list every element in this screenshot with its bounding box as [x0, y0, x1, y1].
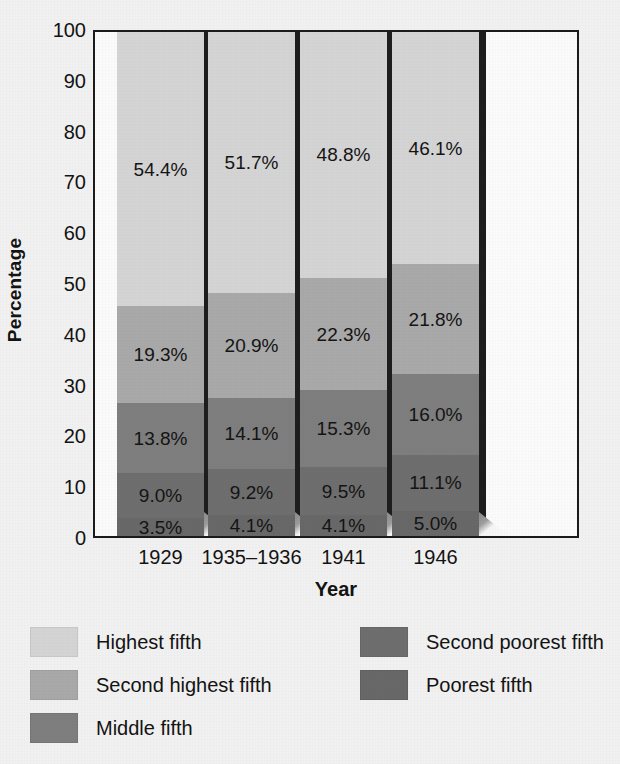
bar-segment: 9.0%: [117, 473, 204, 518]
legend-label: Second highest fifth: [96, 674, 272, 697]
bar-segment: 48.8%: [300, 32, 387, 278]
bar-segment-label: 16.0%: [409, 405, 463, 424]
bar-segment: 16.0%: [392, 374, 479, 455]
bar-segment: 13.8%: [117, 403, 204, 473]
bar-segment: 9.2%: [208, 469, 295, 515]
legend-column-right: Second poorest fifthPoorest fifth: [360, 622, 600, 708]
bar-segment: 11.1%: [392, 455, 479, 511]
legend-item[interactable]: Highest fifth: [30, 622, 360, 662]
legend-label: Middle fifth: [96, 717, 193, 740]
bar-segment: 9.5%: [300, 467, 387, 515]
y-axis-tick-90: 90: [64, 69, 86, 92]
x-axis-tick-1929: 1929: [138, 546, 183, 569]
bar-segment: 20.9%: [208, 293, 295, 398]
y-axis-tick-labels: 0102030405060708090100: [44, 30, 90, 538]
bar-segment-label: 19.3%: [134, 345, 188, 364]
bar-segment-label: 5.0%: [414, 514, 457, 533]
legend-column-left: Highest fifthSecond highest fifthMiddle …: [30, 622, 360, 751]
legend-item[interactable]: Middle fifth: [30, 708, 360, 748]
y-axis-tick-40: 40: [64, 323, 86, 346]
bar-1946: 5.0%11.1%16.0%21.8%46.1%: [392, 32, 479, 536]
plot-area: 3.5%9.0%13.8%19.3%54.4%4.1%9.2%14.1%20.9…: [93, 30, 579, 538]
bar-segment-label: 9.2%: [230, 483, 273, 502]
bar-segment: 21.8%: [392, 264, 479, 374]
y-axis-title: Percentage: [4, 210, 26, 370]
bar-segment: 19.3%: [117, 306, 204, 403]
bar-stack: 5.0%11.1%16.0%21.8%46.1%: [392, 32, 479, 536]
y-axis-tick-80: 80: [64, 120, 86, 143]
bar-segment: 46.1%: [392, 32, 479, 264]
bar-segment: 4.1%: [208, 515, 295, 536]
bar-segment-label: 54.4%: [134, 160, 188, 179]
x-axis-tick-1946: 1946: [413, 546, 458, 569]
bar-segment: 54.4%: [117, 32, 204, 306]
y-axis-tick-10: 10: [64, 476, 86, 499]
legend-label: Highest fifth: [96, 631, 202, 654]
bar-segment-label: 46.1%: [409, 139, 463, 158]
bar-segment-label: 22.3%: [317, 325, 371, 344]
bar-segment-label: 21.8%: [409, 310, 463, 329]
legend-swatch-icon: [360, 670, 408, 700]
bar-segment: 14.1%: [208, 398, 295, 469]
bar-1929: 3.5%9.0%13.8%19.3%54.4%: [117, 32, 204, 536]
x-axis-tick-labels: 19291935–193619411946: [93, 546, 579, 576]
bar-segment-label: 9.0%: [139, 486, 182, 505]
y-axis-tick-50: 50: [64, 273, 86, 296]
bar-segment: 4.1%: [300, 515, 387, 536]
y-axis-tick-0: 0: [75, 527, 86, 550]
bar-1935–1936: 4.1%9.2%14.1%20.9%51.7%: [208, 32, 295, 536]
bar-segment: 51.7%: [208, 32, 295, 293]
bar-segment-label: 20.9%: [225, 336, 279, 355]
legend-swatch-icon: [30, 713, 78, 743]
legend-item[interactable]: Second poorest fifth: [360, 622, 600, 662]
legend-item[interactable]: Poorest fifth: [360, 665, 600, 705]
bar-segment-label: 4.1%: [322, 516, 365, 535]
bar-1941: 4.1%9.5%15.3%22.3%48.8%: [300, 32, 387, 536]
bar-segment: 5.0%: [392, 511, 479, 536]
legend-swatch-icon: [30, 670, 78, 700]
bar-stack: 4.1%9.5%15.3%22.3%48.8%: [300, 32, 387, 536]
x-axis-tick-1935–1936: 1935–1936: [201, 546, 301, 569]
chart-legend: Highest fifthSecond highest fifthMiddle …: [30, 622, 590, 742]
bar-segment: 22.3%: [300, 278, 387, 390]
bar-segment-label: 11.1%: [409, 473, 461, 492]
y-axis-tick-60: 60: [64, 222, 86, 245]
legend-swatch-icon: [360, 627, 408, 657]
legend-label: Poorest fifth: [426, 674, 533, 697]
legend-item[interactable]: Second highest fifth: [30, 665, 360, 705]
legend-swatch-icon: [30, 627, 78, 657]
y-axis-tick-30: 30: [64, 374, 86, 397]
bar-segment: 15.3%: [300, 390, 387, 467]
x-axis-tick-1941: 1941: [321, 546, 366, 569]
bar-segment-label: 51.7%: [225, 153, 279, 172]
y-axis-tick-70: 70: [64, 171, 86, 194]
bar-segment: 3.5%: [117, 518, 204, 536]
y-axis-tick-100: 100: [53, 19, 86, 42]
bar-segment-label: 13.8%: [134, 429, 188, 448]
bar-segment-label: 14.1%: [225, 424, 279, 443]
bar-segment-label: 9.5%: [322, 482, 365, 501]
bar-shadow-edge: [479, 32, 486, 536]
x-axis-title: Year: [93, 578, 579, 601]
chart-figure: Percentage 0102030405060708090100 3.5%9.…: [0, 0, 620, 764]
bar-segment-label: 4.1%: [230, 516, 273, 535]
plot-inner: 3.5%9.0%13.8%19.3%54.4%4.1%9.2%14.1%20.9…: [95, 32, 577, 536]
bar-segment-label: 3.5%: [139, 518, 182, 537]
y-axis-tick-20: 20: [64, 425, 86, 448]
bar-stack: 4.1%9.2%14.1%20.9%51.7%: [208, 32, 295, 536]
legend-label: Second poorest fifth: [426, 631, 604, 654]
bar-stack: 3.5%9.0%13.8%19.3%54.4%: [117, 32, 204, 536]
bar-segment-label: 15.3%: [317, 419, 371, 438]
bar-segment-label: 48.8%: [317, 145, 371, 164]
